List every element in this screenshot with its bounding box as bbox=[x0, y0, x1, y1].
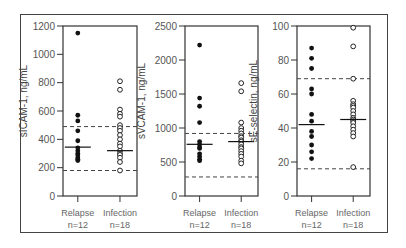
x-category-n: n=12 bbox=[68, 220, 88, 230]
data-point-open bbox=[118, 87, 123, 92]
data-point-open bbox=[118, 79, 123, 84]
data-point-open bbox=[239, 81, 244, 86]
y-tick-label: 2500 bbox=[155, 21, 178, 32]
y-tick-label: 0 bbox=[49, 191, 55, 202]
data-point-filled bbox=[309, 129, 314, 134]
data-point-open bbox=[351, 165, 356, 170]
data-point-filled bbox=[75, 158, 80, 163]
data-point-filled bbox=[197, 104, 202, 109]
data-point-filled bbox=[309, 112, 314, 117]
data-point-filled bbox=[75, 31, 80, 36]
data-point-filled bbox=[197, 43, 202, 48]
y-tick-label: 0 bbox=[283, 191, 289, 202]
x-category-label: Relapse bbox=[295, 208, 328, 218]
data-point-open bbox=[239, 89, 244, 94]
x-category-n: n=18 bbox=[231, 220, 251, 230]
y-tick-label: 1000 bbox=[33, 49, 56, 60]
y-tick-label: 500 bbox=[160, 157, 177, 168]
x-category-label: Infection bbox=[336, 208, 370, 218]
y-tick-label: 1000 bbox=[155, 123, 178, 134]
x-category-n: n=18 bbox=[110, 220, 130, 230]
data-point-open bbox=[351, 76, 356, 81]
y-tick-label: 0 bbox=[171, 191, 177, 202]
panel-2: 05001000150020002500sVCAM-1, ng/mLRelaps… bbox=[136, 21, 258, 231]
data-point-filled bbox=[75, 119, 80, 124]
y-tick-label: 2000 bbox=[155, 55, 178, 66]
data-point-filled bbox=[75, 113, 80, 118]
y-tick-label: 40 bbox=[278, 123, 290, 134]
data-point-open bbox=[118, 114, 123, 119]
y-tick-label: 60 bbox=[278, 89, 290, 100]
data-point-open bbox=[118, 168, 123, 173]
data-point-filled bbox=[309, 56, 314, 61]
data-point-filled bbox=[309, 66, 314, 71]
data-point-filled bbox=[309, 134, 314, 139]
y-tick-label: 600 bbox=[38, 106, 55, 117]
data-point-open bbox=[351, 134, 356, 139]
x-category-label: Relapse bbox=[183, 208, 216, 218]
data-point-open bbox=[239, 120, 244, 125]
x-category-n: n=12 bbox=[189, 220, 209, 230]
x-category-label: Infection bbox=[224, 208, 258, 218]
data-point-filled bbox=[197, 146, 202, 151]
y-tick-label: 1200 bbox=[33, 21, 56, 32]
data-point-open bbox=[118, 160, 123, 165]
x-category-label: Relapse bbox=[61, 208, 94, 218]
panel-3: 020406080100sE-selectin, ng/mLRelapsen=1… bbox=[248, 21, 370, 231]
data-point-filled bbox=[309, 92, 314, 97]
data-point-filled bbox=[309, 143, 314, 148]
y-tick-label: 800 bbox=[38, 77, 55, 88]
y-tick-label: 1500 bbox=[155, 89, 178, 100]
data-point-open bbox=[239, 161, 244, 166]
data-point-filled bbox=[309, 87, 314, 92]
y-tick-label: 100 bbox=[272, 21, 289, 32]
data-point-filled bbox=[197, 96, 202, 101]
x-category-n: n=18 bbox=[343, 220, 363, 230]
y-tick-label: 400 bbox=[38, 134, 55, 145]
data-point-open bbox=[351, 44, 356, 49]
y-tick-label: 200 bbox=[38, 162, 55, 173]
data-point-filled bbox=[197, 158, 202, 163]
plot-box bbox=[297, 26, 370, 196]
y-tick-label: 20 bbox=[278, 157, 290, 168]
data-point-filled bbox=[75, 128, 80, 133]
data-point-filled bbox=[309, 149, 314, 154]
y-axis-label: sICAM-1, ng/mL bbox=[18, 64, 29, 137]
panel-1: 020040060080010001200sICAM-1, ng/mLRelap… bbox=[18, 21, 137, 231]
y-axis-label: sVCAM-1, ng/mL bbox=[136, 62, 147, 139]
y-tick-label: 80 bbox=[278, 55, 290, 66]
x-category-label: Infection bbox=[103, 208, 137, 218]
data-point-filled bbox=[309, 156, 314, 161]
data-point-open bbox=[351, 25, 356, 30]
data-point-filled bbox=[197, 120, 202, 125]
x-category-n: n=12 bbox=[301, 220, 321, 230]
chart-canvas: 020040060080010001200sICAM-1, ng/mLRelap… bbox=[0, 0, 406, 248]
data-point-filled bbox=[309, 119, 314, 124]
data-point-filled bbox=[75, 138, 80, 143]
data-point-filled bbox=[309, 46, 314, 51]
y-axis-label: sE-selectin, ng/mL bbox=[248, 59, 259, 142]
